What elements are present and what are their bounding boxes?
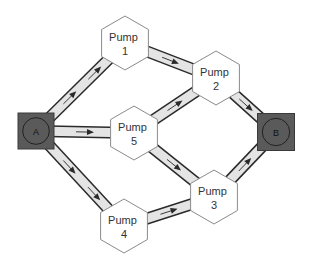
pump-4-label: Pump bbox=[108, 214, 137, 226]
pump-1-label: Pump bbox=[109, 31, 138, 43]
pump-4-number: 4 bbox=[121, 228, 127, 240]
terminal-b: B bbox=[258, 114, 295, 151]
terminal-a: A bbox=[18, 113, 54, 149]
pump-3-number: 3 bbox=[211, 199, 217, 211]
terminal-b-label: B bbox=[273, 128, 279, 138]
pump-2-number: 2 bbox=[213, 80, 219, 92]
pump-network-diagram: A B Pump 1 Pump 2 Pump bbox=[0, 0, 311, 265]
pump-2-label: Pump bbox=[200, 66, 229, 78]
pump-1-number: 1 bbox=[122, 45, 128, 57]
pump-5-label: Pump bbox=[118, 121, 147, 133]
pump-5-number: 5 bbox=[131, 135, 137, 147]
terminal-a-label: A bbox=[33, 127, 39, 137]
pump-3-label: Pump bbox=[198, 185, 227, 197]
